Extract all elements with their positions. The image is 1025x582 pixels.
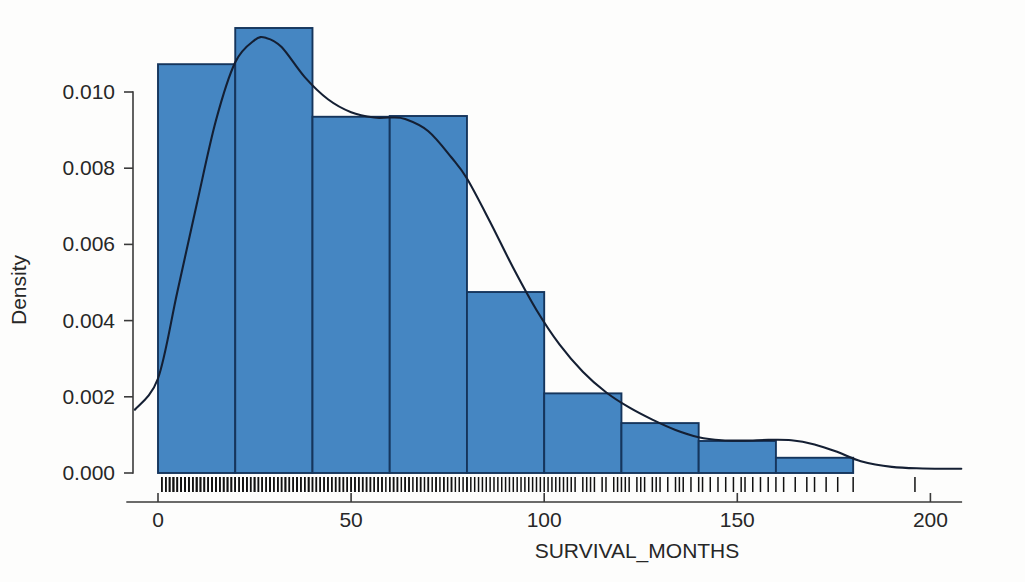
x-tick-label: 150 — [720, 508, 755, 531]
rug-plot — [162, 477, 915, 492]
x-tick-label: 100 — [527, 508, 562, 531]
histogram-bar — [544, 393, 621, 473]
histogram-bar — [699, 441, 776, 473]
x-axis-ticks: 050100150200 — [152, 493, 948, 531]
histogram-bar — [158, 64, 235, 473]
density-histogram-figure: 0.0000.0020.0040.0060.0080.010 050100150… — [0, 0, 1025, 582]
y-tick-label: 0.010 — [62, 80, 115, 103]
x-tick-label: 50 — [339, 508, 362, 531]
y-tick-label: 0.004 — [62, 309, 115, 332]
histogram-bar — [621, 423, 698, 473]
chart-canvas: 0.0000.0020.0040.0060.0080.010 050100150… — [0, 0, 1025, 582]
histogram-bar — [235, 28, 312, 473]
y-axis: 0.0000.0020.0040.0060.0080.010 — [62, 80, 133, 484]
y-axis-title: Density — [7, 254, 30, 325]
x-tick-label: 200 — [913, 508, 948, 531]
y-axis-ticks: 0.0000.0020.0040.0060.0080.010 — [62, 80, 133, 484]
histogram-bar — [312, 117, 389, 473]
y-tick-label: 0.006 — [62, 232, 115, 255]
x-axis: 050100150200 — [127, 493, 961, 531]
x-tick-label: 0 — [152, 508, 164, 531]
histogram-bar — [467, 292, 544, 473]
x-axis-title: SURVIVAL_MONTHS — [535, 539, 740, 563]
histogram-bar — [776, 458, 853, 473]
histogram-bar — [390, 116, 467, 473]
y-tick-label: 0.008 — [62, 156, 115, 179]
y-tick-label: 0.002 — [62, 385, 115, 408]
y-tick-label: 0.000 — [62, 461, 115, 484]
